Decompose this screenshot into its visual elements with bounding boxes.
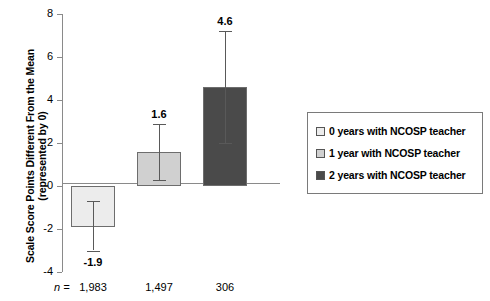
error-bar-cap-lower-1-year — [153, 180, 166, 181]
legend-item-1-year: 1 year with NCOSP teacher — [316, 142, 476, 164]
error-bar-cap-upper-0-years — [87, 201, 100, 202]
legend-label-1-year: 1 year with NCOSP teacher — [329, 147, 460, 159]
y-tick-minus-4: -4 — [57, 272, 62, 273]
y-tick-label-2: 2 — [29, 136, 53, 149]
error-bar-cap-lower-0-years — [87, 251, 100, 252]
y-tick-8: 8 — [57, 14, 62, 15]
y-tick-label-minus-4: -4 — [29, 265, 53, 278]
value-label-1-year: 1.6 — [139, 108, 179, 121]
y-tick-label-6: 6 — [29, 50, 53, 63]
legend-label-2-years: 2 years with NCOSP teacher — [329, 169, 466, 181]
y-tick-label-4: 4 — [29, 93, 53, 106]
error-bar-cap-lower-2-years — [219, 143, 232, 144]
y-tick-6: 6 — [57, 57, 62, 58]
legend-swatch-0-years — [316, 127, 325, 136]
error-bar-cap-upper-2-years — [219, 31, 232, 32]
legend-swatch-1-year — [316, 149, 325, 158]
legend-item-0-years: 0 years with NCOSP teacher — [316, 120, 476, 142]
legend-swatch-2-years — [316, 171, 325, 180]
error-bar-line-1-year — [159, 124, 160, 180]
sample-size-0-years: 1,983 — [63, 281, 123, 293]
error-bar-cap-upper-1-year — [153, 124, 166, 125]
error-bar-line-2-years — [225, 31, 226, 143]
legend-item-2-years: 2 years with NCOSP teacher — [316, 164, 476, 186]
value-label-0-years: -1.9 — [73, 256, 113, 269]
y-axis-spine — [62, 14, 63, 272]
plot-area: 8 6 4 2 0 -2 -4 — [62, 14, 280, 272]
sample-size-1-year: 1,497 — [129, 281, 189, 293]
y-tick-0: 0 — [57, 186, 62, 187]
y-tick-label-8: 8 — [29, 7, 53, 20]
error-bar-line-0-years — [93, 201, 94, 250]
sample-size-row: n = 1,983 1,497 306 — [0, 281, 490, 297]
legend-label-0-years: 0 years with NCOSP teacher — [329, 125, 466, 137]
chart-legend: 0 years with NCOSP teacher 1 year with N… — [307, 112, 483, 194]
y-axis-title: Scale Score Points Different From the Me… — [20, 27, 54, 285]
chart-figure: Scale Score Points Different From the Me… — [0, 0, 490, 301]
y-tick-minus-2: -2 — [57, 229, 62, 230]
sample-size-2-years: 306 — [195, 281, 255, 293]
value-label-2-years: 4.6 — [205, 15, 245, 28]
y-tick-label-0: 0 — [29, 179, 53, 192]
y-tick-label-minus-2: -2 — [29, 222, 53, 235]
y-tick-4: 4 — [57, 100, 62, 101]
y-tick-2: 2 — [57, 143, 62, 144]
